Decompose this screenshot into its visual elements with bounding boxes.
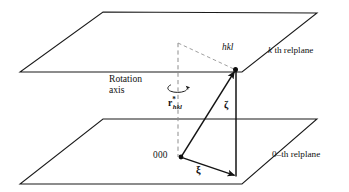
reciprocal-lattice-figure: k th relplane 0–th relplane Rotation axi…: [0, 0, 349, 192]
origin-point-label: 000: [153, 150, 168, 161]
rotation-axis-label: Rotation axis: [109, 74, 142, 95]
r-vector-subscript: hkl: [173, 103, 182, 110]
upper-relplane-suffix: th relplane: [272, 45, 313, 55]
zeta-vertical-label: ζ: [224, 99, 228, 111]
upper-relplane-outline: [20, 12, 317, 72]
xi-horizontal-label: ξ: [196, 164, 201, 176]
hkl-node-dot: [233, 67, 238, 72]
upper-relplane-label: k th relplane: [268, 45, 313, 55]
lower-relplane-label: 0–th relplane: [272, 149, 320, 159]
r-star-hkl-vector-label: r*hkl: [168, 98, 182, 109]
origin-node-dot: [179, 155, 184, 160]
xi-horizontal-component-arrow: [182, 158, 234, 176]
hkl-point-label: hkl: [222, 42, 233, 53]
rotation-axis-label-line2: axis: [109, 85, 142, 96]
r-star-hkl-vector-arrow: [182, 72, 235, 157]
